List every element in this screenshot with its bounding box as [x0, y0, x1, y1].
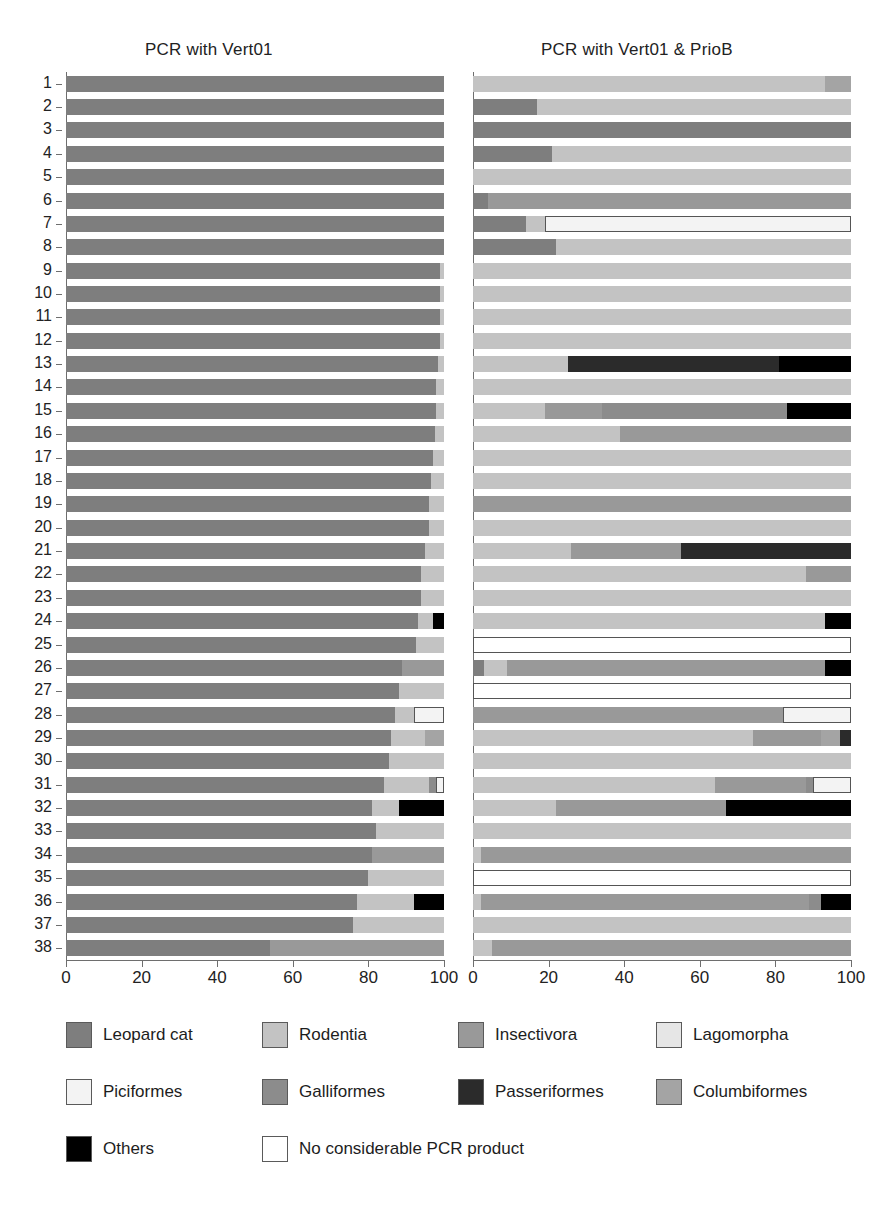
bar-segment-rodentia	[372, 800, 398, 816]
bar-segment-rodentia	[436, 379, 444, 395]
y-tick-mark	[56, 130, 62, 131]
bar-segment-insectivora	[402, 660, 444, 676]
bar-segment-rodentia	[421, 590, 444, 606]
bar-segment-rodentia	[473, 590, 851, 606]
bar-segment-leopard_cat	[66, 99, 444, 115]
bar-segment-rodentia	[473, 450, 851, 466]
legend-item-galliformes[interactable]: Galliformes	[262, 1079, 385, 1105]
bar-segment-others	[825, 660, 851, 676]
bar-segment-rodentia	[473, 613, 825, 629]
y-tick-label: 11	[35, 308, 52, 324]
y-tick-label: 31	[34, 776, 52, 792]
y-tick-mark	[56, 948, 62, 949]
bar-segment-rodentia	[418, 613, 433, 629]
legend-item-columbiformes[interactable]: Columbiformes	[656, 1079, 807, 1105]
y-tick-label: 5	[43, 168, 52, 184]
y-tick-label: 26	[34, 659, 52, 675]
stacked-bar	[473, 753, 851, 769]
y-tick-mark	[56, 247, 62, 248]
stacked-bar	[473, 847, 851, 863]
stacked-bar	[473, 309, 851, 325]
y-tick-label: 15	[34, 402, 52, 418]
stacked-bar	[473, 333, 851, 349]
bar-segment-others	[821, 894, 851, 910]
bar-segment-rodentia	[473, 286, 851, 302]
bar-segment-rodentia	[473, 263, 851, 279]
bar-segment-rodentia	[473, 309, 851, 325]
bar-segment-leopard_cat	[66, 566, 421, 582]
x-tick-label: 100	[430, 968, 458, 988]
bar-segment-galliformes	[809, 894, 820, 910]
legend-item-none[interactable]: No considerable PCR product	[262, 1136, 524, 1162]
chart-legend: Leopard catRodentiaInsectivoraLagomorpha…	[66, 1022, 826, 1172]
bar-segment-leopard_cat	[66, 660, 402, 676]
x-tick-mark	[293, 960, 294, 967]
legend-swatch-lagomorpha	[656, 1022, 682, 1048]
legend-item-others[interactable]: Others	[66, 1136, 154, 1162]
legend-item-piciformes[interactable]: Piciformes	[66, 1079, 182, 1105]
y-tick-label: 20	[34, 519, 52, 535]
stacked-bar	[66, 590, 444, 606]
y-tick-mark	[56, 458, 62, 459]
bar-segment-insectivora	[481, 894, 810, 910]
legend-swatch-galliformes	[262, 1079, 288, 1105]
stacked-bar	[66, 473, 444, 489]
bar-segment-rodentia	[353, 917, 444, 933]
bar-segment-rodentia	[473, 520, 851, 536]
x-tick-mark	[368, 960, 369, 967]
bar-segment-leopard_cat	[66, 730, 391, 746]
y-tick-mark	[56, 364, 62, 365]
y-tick-mark	[56, 341, 62, 342]
y-tick-mark	[56, 574, 62, 575]
y-tick-label: 34	[34, 846, 52, 862]
bar-rows-left	[66, 72, 444, 960]
legend-item-rodentia[interactable]: Rodentia	[262, 1022, 367, 1048]
stacked-bar	[66, 239, 444, 255]
bar-segment-passeriformes	[681, 543, 851, 559]
stacked-bar	[473, 239, 851, 255]
legend-item-insectivora[interactable]: Insectivora	[458, 1022, 577, 1048]
chart-panel-right: 020406080100	[473, 72, 851, 960]
bar-segment-leopard_cat	[473, 99, 537, 115]
y-tick-label: 8	[43, 238, 52, 254]
legend-item-lagomorpha[interactable]: Lagomorpha	[656, 1022, 788, 1048]
y-tick-label: 35	[34, 869, 52, 885]
bar-segment-leopard_cat	[66, 239, 444, 255]
y-tick-label: 12	[34, 332, 52, 348]
bar-segment-passeriformes	[568, 356, 780, 372]
stacked-bar	[473, 660, 851, 676]
bar-segment-rodentia	[399, 683, 444, 699]
bar-segment-rodentia	[473, 333, 851, 349]
legend-item-passeriformes[interactable]: Passeriformes	[458, 1079, 604, 1105]
bar-segment-leopard_cat	[66, 356, 438, 372]
y-tick-label: 4	[43, 145, 52, 161]
legend-label: Insectivora	[495, 1025, 577, 1045]
bar-segment-leopard_cat	[66, 683, 399, 699]
stacked-bar	[473, 566, 851, 582]
stacked-bar	[473, 450, 851, 466]
stacked-bar	[66, 637, 444, 653]
legend-label: No considerable PCR product	[299, 1139, 524, 1159]
stacked-bar	[66, 216, 444, 232]
stacked-bar	[473, 76, 851, 92]
x-tick-label: 80	[766, 968, 785, 988]
legend-swatch-leopard_cat	[66, 1022, 92, 1048]
x-tick-label: 40	[208, 968, 227, 988]
y-tick-mark	[56, 411, 62, 412]
stacked-bar	[473, 870, 851, 886]
y-tick-label: 7	[43, 215, 52, 231]
bar-segment-leopard_cat	[473, 660, 484, 676]
stacked-bar	[66, 566, 444, 582]
bar-segment-others	[399, 800, 444, 816]
legend-item-leopard_cat[interactable]: Leopard cat	[66, 1022, 193, 1048]
y-tick-label: 32	[34, 799, 52, 815]
bar-segment-rodentia	[376, 823, 444, 839]
bar-segment-rodentia	[473, 823, 851, 839]
bar-segment-leopard_cat	[473, 239, 556, 255]
x-tick-mark	[473, 960, 474, 967]
chart-panel-left: 020406080100	[66, 72, 444, 960]
bar-segment-leopard_cat	[66, 777, 384, 793]
bar-segment-rodentia	[473, 169, 851, 185]
bar-segment-rodentia	[556, 239, 851, 255]
bar-segment-insectivora	[507, 660, 825, 676]
